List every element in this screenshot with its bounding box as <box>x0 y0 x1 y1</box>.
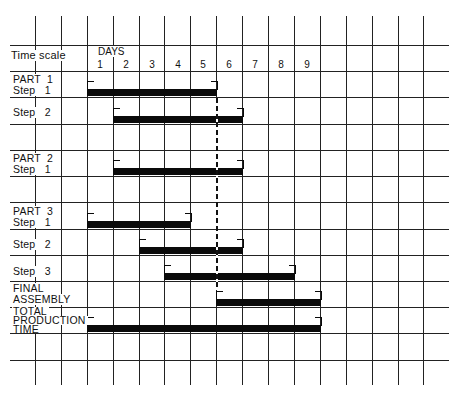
grid-hline <box>10 307 449 308</box>
start-bracket-icon <box>113 108 120 117</box>
end-bracket-icon <box>289 265 296 274</box>
dependency-dashed-line <box>216 98 218 290</box>
grid-hline <box>10 97 449 98</box>
start-bracket-icon <box>139 239 146 248</box>
day-1: 1 <box>93 59 107 70</box>
task-bar <box>164 273 295 280</box>
grid-hline <box>10 71 449 72</box>
days-axis-title: DAYS <box>97 46 126 57</box>
end-bracket-icon <box>185 213 192 222</box>
start-bracket-icon <box>87 81 94 90</box>
grid-hline <box>10 333 449 334</box>
end-bracket-icon <box>315 317 322 326</box>
label-part1-step2: Step 2 <box>12 107 53 118</box>
day-6: 6 <box>222 59 236 70</box>
start-bracket-icon <box>216 291 223 300</box>
end-bracket-icon <box>237 108 244 117</box>
grid-hline <box>10 124 449 125</box>
day-4: 4 <box>171 59 185 70</box>
day-2: 2 <box>119 59 133 70</box>
task-bar <box>87 221 191 228</box>
end-bracket-icon <box>315 291 322 300</box>
label-time: TIME <box>12 325 41 333</box>
day-9: 9 <box>300 59 314 70</box>
gantt-chart: Time scale DAYS 1 2 3 4 5 6 7 8 9 PART 1… <box>0 0 455 393</box>
end-bracket-icon <box>237 160 244 169</box>
label-part3-step2: Step 2 <box>12 239 53 250</box>
day-8: 8 <box>274 59 288 70</box>
task-bar <box>216 299 321 306</box>
start-bracket-icon <box>87 317 94 326</box>
label-part3-step1: Step 1 <box>12 217 53 228</box>
start-bracket-icon <box>87 213 94 222</box>
grid-hline <box>10 360 449 361</box>
task-bar <box>87 325 321 332</box>
grid-hline <box>10 176 449 177</box>
grid-hline <box>10 255 449 256</box>
grid-hline <box>10 229 449 230</box>
task-bar <box>113 168 243 175</box>
task-bar <box>87 89 217 96</box>
end-bracket-icon <box>211 81 218 90</box>
grid-hline <box>10 202 449 203</box>
end-bracket-icon <box>237 239 244 248</box>
grid-hline <box>10 150 449 151</box>
start-bracket-icon <box>164 265 171 274</box>
grid-hline <box>10 281 449 282</box>
grid-hline <box>10 45 449 46</box>
start-bracket-icon <box>113 160 120 169</box>
time-scale-label: Time scale <box>10 50 68 61</box>
label-part2-step1: Step 1 <box>12 164 53 175</box>
day-3: 3 <box>145 59 159 70</box>
label-assembly: ASSEMBLY <box>12 294 72 305</box>
day-7: 7 <box>248 59 262 70</box>
task-bar <box>113 116 243 123</box>
day-5: 5 <box>196 59 210 70</box>
label-part3-step3: Step 3 <box>12 266 53 277</box>
task-bar <box>139 247 243 254</box>
label-part1-step1: Step 1 <box>12 85 53 96</box>
